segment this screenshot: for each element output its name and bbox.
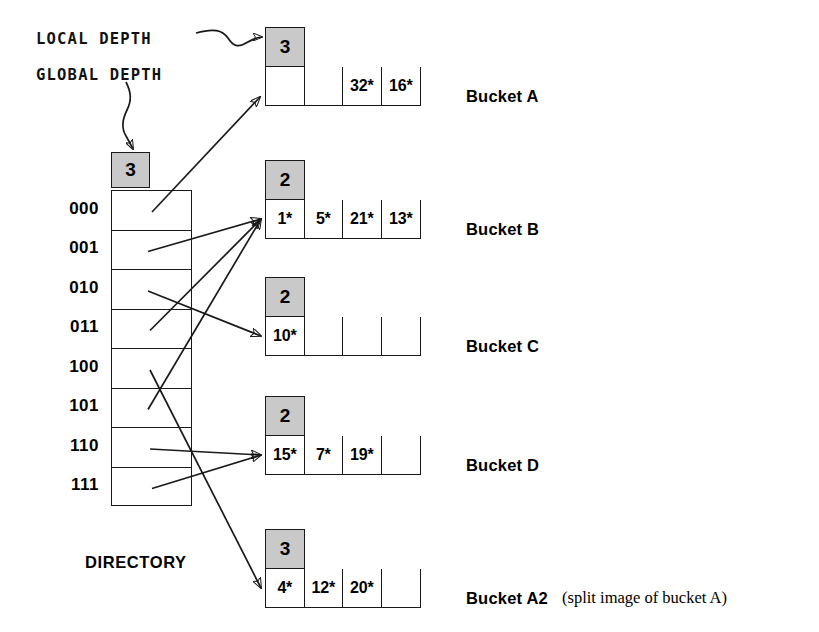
bucket-name-label: Bucket A [466,87,539,106]
directory-global-depth-box: 3 [111,152,150,188]
bucket-cell: 1* [266,200,305,238]
local-depth-label: LOCAL DEPTH [36,30,152,48]
bucket-cell [382,317,421,355]
bucket-cells: 32*16* [265,67,421,106]
directory-entry-000[interactable] [112,191,191,231]
directory-index-label-100: 100 [39,357,99,377]
directory-entry-100[interactable] [112,349,191,389]
bucket-name-label: Bucket D [466,456,539,475]
global-depth-label: GLOBAL DEPTH [36,66,162,84]
global-depth-pointer [123,82,133,149]
directory-index-label-000: 000 [39,199,99,219]
bucket-cell [305,317,344,355]
local-depth-pointer [196,30,262,45]
bucket-cells: 10* [265,317,421,356]
bucket-cell [382,569,421,607]
directory-entry-111[interactable] [112,468,191,508]
directory-index-label-110: 110 [39,436,99,456]
bucket-name-label: Bucket B [466,220,539,239]
directory-body [111,190,192,506]
bucket-local-depth-box: 2 [265,160,305,200]
directory-entry-010[interactable] [112,270,191,310]
bucket-cell: 5* [305,200,344,238]
directory-entry-101[interactable] [112,389,191,429]
bucket-cells: 1*5*21*13* [265,200,421,239]
directory-entry-110[interactable] [112,428,191,468]
bucket-cell [266,67,305,105]
directory-index-label-010: 010 [39,278,99,298]
bucket-name-label: Bucket A2 [466,589,548,608]
bucket-local-depth-box: 2 [265,277,305,317]
bucket-cell: 7* [305,436,344,474]
bucket-local-depth-box: 3 [265,27,305,67]
bucket-local-depth-box: 3 [265,529,305,569]
bucket-local-depth-box: 2 [265,396,305,436]
bucket-cell [305,67,344,105]
bucket-cell: 12* [305,569,344,607]
bucket-cell: 20* [343,569,382,607]
directory-index-label-001: 001 [39,238,99,258]
bucket-note-label: (split image of bucket A) [562,588,727,608]
bucket-cell: 15* [266,436,305,474]
bucket-cells: 15*7*19* [265,436,421,475]
directory-index-label-101: 101 [39,396,99,416]
bucket-cell: 10* [266,317,305,355]
directory-caption: DIRECTORY [85,553,187,572]
directory-entry-011[interactable] [112,310,191,350]
bucket-cell: 19* [343,436,382,474]
bucket-cell: 16* [382,67,421,105]
bucket-cell: 32* [343,67,382,105]
bucket-cell: 13* [382,200,421,238]
bucket-cell [382,436,421,474]
bucket-cell [343,317,382,355]
directory-index-label-111: 111 [39,475,99,495]
bucket-cells: 4*12*20* [265,569,421,608]
bucket-name-label: Bucket C [466,337,539,356]
bucket-cell: 4* [266,569,305,607]
directory-index-label-011: 011 [39,317,99,337]
diagram-canvas: LOCAL DEPTH GLOBAL DEPTH 3 0000010100111… [0,0,819,632]
directory-entry-001[interactable] [112,231,191,271]
bucket-cell: 21* [343,200,382,238]
